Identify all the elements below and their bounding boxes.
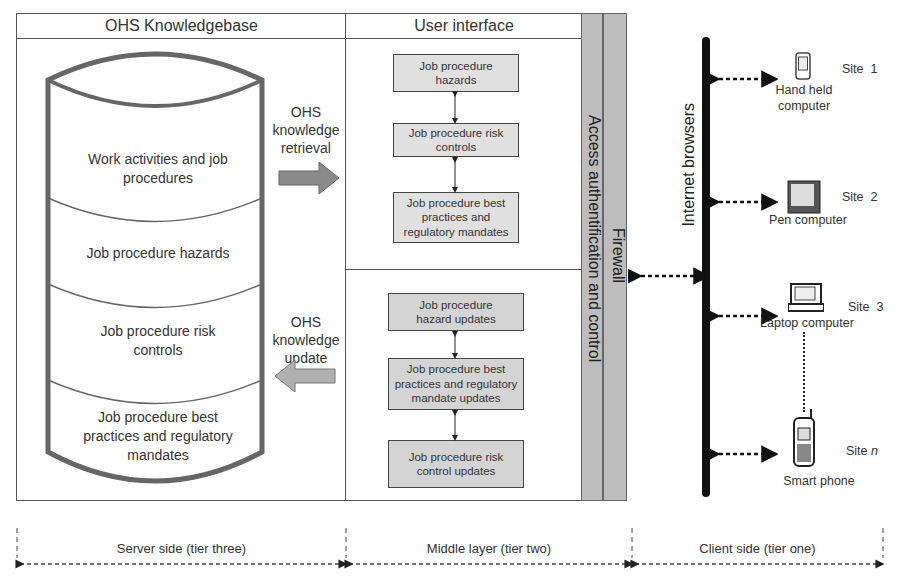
tier-one-label: Client side (tier one) xyxy=(632,541,883,556)
handheld-computer-icon xyxy=(795,52,811,80)
site-2-label: Site 2 xyxy=(842,190,877,204)
tier-two-label: Middle layer (tier two) xyxy=(346,541,632,556)
internet-browsers-label: Internet browsers xyxy=(680,103,698,227)
ui-box-hazards: Job procedure hazards xyxy=(393,54,519,92)
smart-phone-label: Smart phone xyxy=(776,474,862,490)
retrieval-arrow-icon xyxy=(277,160,341,196)
laptop-computer-icon xyxy=(788,283,824,313)
handheld-computer-label: Hand held computer xyxy=(772,83,836,114)
site-1-label: Site 1 xyxy=(842,62,877,76)
site-3-label: Site 3 xyxy=(848,300,883,314)
kb-layer-risk-controls: Job procedure risk controls xyxy=(88,322,228,360)
ui-connector-arrows xyxy=(440,90,470,450)
kb-layer-hazards: Job procedure hazards xyxy=(68,244,248,263)
site-n-label: Site n xyxy=(846,444,878,458)
retrieval-label: OHS knowledge retrieval xyxy=(268,103,344,158)
firewall-label: Firewall xyxy=(605,228,627,283)
access-control-label: Access authentification and control xyxy=(581,115,603,362)
pen-computer-icon xyxy=(787,180,821,214)
smart-phone-icon xyxy=(793,408,817,468)
ellipsis-dots xyxy=(803,332,805,412)
pen-computer-label: Pen computer xyxy=(762,213,854,229)
knowledgebase-title: OHS Knowledgebase xyxy=(17,14,346,39)
firewall-bus-connector xyxy=(628,266,710,286)
update-arrow-icon xyxy=(273,358,337,394)
tier-three-label: Server side (tier three) xyxy=(17,541,346,556)
laptop-computer-label: Laptop computer xyxy=(752,316,862,332)
user-interface-title: User interface xyxy=(346,14,582,39)
kb-layer-work-activities: Work activities and job procedures xyxy=(78,150,238,188)
kb-layer-best-practices: Job procedure best practices and regulat… xyxy=(72,408,244,465)
device-connectors xyxy=(708,70,778,470)
